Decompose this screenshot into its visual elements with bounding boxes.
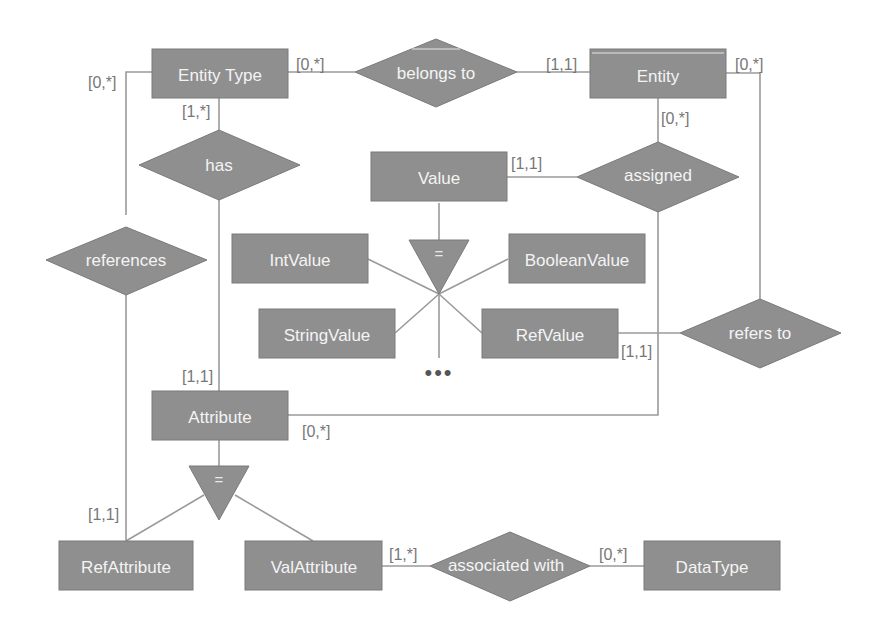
assigned-label: assigned xyxy=(624,166,692,185)
line-isa-refattribute xyxy=(126,495,204,541)
cardinality: [1,1] xyxy=(511,155,542,172)
cardinality: [1,1] xyxy=(621,343,652,360)
has-label: has xyxy=(205,156,232,175)
value-label: Value xyxy=(418,169,460,188)
int-value-label: IntValue xyxy=(269,251,330,270)
cardinality: [0,*] xyxy=(735,56,763,73)
cardinality: [1,1] xyxy=(88,506,119,523)
boolean-value-label: BooleanValue xyxy=(525,251,630,270)
cardinality: [1,1] xyxy=(546,56,577,73)
ref-attribute-label: RefAttribute xyxy=(81,558,171,577)
val-attribute-label: ValAttribute xyxy=(271,558,358,577)
relationship-associated-with[interactable]: associated with xyxy=(430,532,590,601)
entity-entity-type[interactable]: Entity Type xyxy=(152,49,288,98)
references-label: references xyxy=(86,251,166,270)
more-subtypes-ellipsis: ••• xyxy=(424,360,453,385)
string-value-label: StringValue xyxy=(284,326,371,345)
isa-triangle-value: = xyxy=(409,240,469,294)
cardinality: [0,*] xyxy=(88,74,116,91)
data-type-label: DataType xyxy=(676,558,749,577)
associated-with-label: associated with xyxy=(448,556,564,575)
line-isa-stringvalue xyxy=(395,294,439,333)
line-entitytype-references xyxy=(126,72,152,215)
relationship-references[interactable]: references xyxy=(46,227,207,295)
cardinality: [0,*] xyxy=(296,56,324,73)
refers-to-label: refers to xyxy=(729,324,791,343)
isa-symbol: = xyxy=(215,471,224,488)
attribute-label: Attribute xyxy=(188,408,251,427)
entity-attribute[interactable]: Attribute xyxy=(152,391,288,440)
cardinality-labels: [0,*] [1,1] [0,*] [0,*] [1,*] [0,*] [1,1… xyxy=(88,56,763,563)
cardinality: [0,*] xyxy=(302,423,330,440)
line-entity-refersto xyxy=(726,73,760,299)
entity-data-type[interactable]: DataType xyxy=(644,541,780,590)
entity-entity[interactable]: Entity xyxy=(590,49,726,98)
entity-string-value[interactable]: StringValue xyxy=(259,309,395,358)
isa-symbol: = xyxy=(435,245,444,262)
relationship-has[interactable]: has xyxy=(139,130,300,200)
entity-ref-value[interactable]: RefValue xyxy=(482,309,618,358)
cardinality: [1,*] xyxy=(389,546,417,563)
entity-boolean-value[interactable]: BooleanValue xyxy=(509,234,645,283)
entity-val-attribute[interactable]: ValAttribute xyxy=(245,541,382,590)
entity-value[interactable]: Value xyxy=(371,152,507,201)
er-diagram: Entity Type Entity Value IntValue Boolea… xyxy=(0,0,882,629)
relationship-assigned[interactable]: assigned xyxy=(577,142,739,212)
entity-label: Entity xyxy=(637,67,680,86)
cardinality: [0,*] xyxy=(599,546,627,563)
relationship-belongs-to[interactable]: belongs to xyxy=(355,39,517,107)
cardinality: [0,*] xyxy=(661,110,689,127)
entity-type-label: Entity Type xyxy=(178,66,262,85)
cardinality: [1,1] xyxy=(182,368,213,385)
belongs-to-label: belongs to xyxy=(397,64,475,83)
relationship-refers-to[interactable]: refers to xyxy=(680,299,841,368)
line-isa-valattribute xyxy=(235,495,313,541)
cardinality: [1,*] xyxy=(182,103,210,120)
line-isa-refvalue xyxy=(439,294,482,333)
ref-value-label: RefValue xyxy=(516,326,585,345)
entity-ref-attribute[interactable]: RefAttribute xyxy=(59,541,193,590)
entity-int-value[interactable]: IntValue xyxy=(232,234,368,283)
isa-triangle-attribute: = xyxy=(189,466,249,520)
